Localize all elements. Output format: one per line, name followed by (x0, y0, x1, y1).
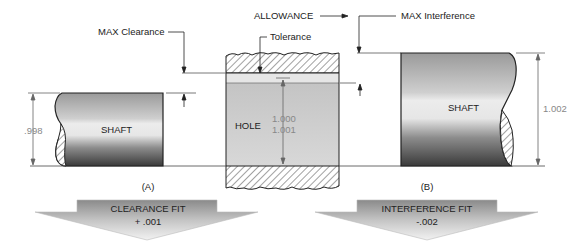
right-shaft-dimension (516, 53, 545, 165)
max-clearance-leader (168, 32, 226, 73)
max-interference-leader (357, 16, 401, 53)
hole-label: HOLE (235, 121, 261, 131)
interference-gap-arrow (340, 83, 362, 96)
hole-dim-min: 1.000 (272, 114, 296, 124)
allowance-arrow (320, 14, 348, 18)
max-interference-label: MAX Interference (401, 11, 475, 21)
clearance-fit-text: CLEARANCE FIT + .001 (111, 202, 186, 228)
right-shaft-label: SHAFT (448, 103, 479, 113)
clearance-fit-value: + .001 (111, 215, 186, 228)
clearance-fit-title: CLEARANCE FIT (111, 202, 186, 215)
interference-fit-text: INTERFERENCE FIT -.002 (382, 202, 473, 228)
interference-fit-value: -.002 (382, 215, 473, 228)
left-shaft-label: SHAFT (101, 125, 132, 135)
interference-fit-title: INTERFERENCE FIT (382, 202, 473, 215)
hole-dim-max: 1.001 (272, 125, 296, 135)
caption-b: (B) (421, 182, 434, 192)
left-shaft-dim-label: .998 (24, 126, 43, 136)
allowance-label: ALLOWANCE (254, 11, 313, 21)
right-shaft-dim-label: 1.002 (543, 104, 567, 114)
max-clearance-label: MAX Clearance (98, 27, 165, 37)
clearance-gap-arrow (166, 93, 196, 107)
fit-diagram: MAX Clearance ALLOWANCE MAX Interference… (0, 0, 575, 250)
tolerance-label: Tolerance (270, 32, 311, 42)
caption-a: (A) (142, 182, 155, 192)
